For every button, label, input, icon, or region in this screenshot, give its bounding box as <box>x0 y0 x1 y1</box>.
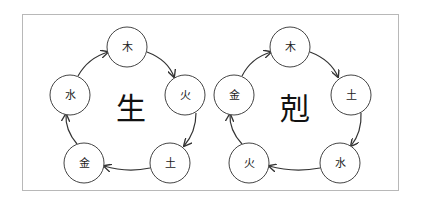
arrow-wood-to-fire <box>147 52 174 77</box>
svg-text:火: 火 <box>244 157 255 170</box>
svg-text:火: 火 <box>180 89 191 102</box>
node-earth: 土 <box>150 143 190 183</box>
node-fire: 火 <box>165 75 205 115</box>
node-water: 水 <box>320 143 360 183</box>
svg-text:金: 金 <box>229 88 240 102</box>
arrow-fire-to-metal <box>230 114 242 144</box>
arrow-fire-to-earth <box>184 113 196 146</box>
svg-text:水: 水 <box>335 157 346 170</box>
node-wood: 木 <box>270 27 310 67</box>
arrow-earth-to-water <box>351 113 361 146</box>
svg-text:木: 木 <box>285 41 296 54</box>
center-label-overcoming: 剋 <box>280 91 310 126</box>
center-label-generating: 生 <box>116 91 146 126</box>
node-wood: 木 <box>107 27 147 67</box>
arrow-water-to-fire <box>269 166 320 170</box>
node-water: 水 <box>50 75 90 115</box>
node-metal: 金 <box>214 75 254 115</box>
svg-text:土: 土 <box>346 89 357 102</box>
node-metal: 金 <box>64 143 104 183</box>
arrow-earth-to-metal <box>104 166 150 170</box>
svg-text:土: 土 <box>165 157 176 170</box>
arrow-metal-to-water <box>66 114 77 144</box>
arrow-metal-to-wood <box>242 52 271 76</box>
svg-text:水: 水 <box>65 89 76 102</box>
arrow-wood-to-earth <box>310 52 338 77</box>
overcoming-cycle: 木 土 水 火 金 剋 <box>214 27 371 183</box>
svg-text:金: 金 <box>79 156 90 170</box>
arrow-water-to-wood <box>78 52 108 76</box>
svg-text:木: 木 <box>122 41 133 54</box>
node-fire: 火 <box>229 143 269 183</box>
five-elements-diagram: 木 火 土 金 水 生 木 土 <box>0 0 421 203</box>
generating-cycle: 木 火 土 金 水 生 <box>50 27 205 183</box>
node-earth: 土 <box>331 75 371 115</box>
